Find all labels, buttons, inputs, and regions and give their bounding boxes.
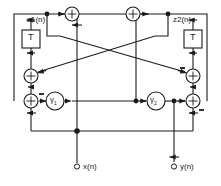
adder-low-right-group — [186, 94, 200, 108]
terminal-input-circle — [74, 164, 79, 169]
adder-mid-left-group — [24, 69, 38, 83]
adder-top-left-group — [65, 7, 79, 21]
label-z1: z1(n) — [27, 16, 45, 24]
junction-dot-gamma2-out — [172, 99, 177, 104]
label-input-x: x(n) — [83, 163, 97, 171]
junction-dot-feedback — [74, 128, 80, 134]
junction-dot-gamma2-in — [134, 99, 139, 104]
label-z2: z2(n) — [173, 16, 191, 24]
label-gamma-1-subscript: 1 — [54, 100, 57, 106]
terminal-output-circle — [171, 164, 176, 169]
adder-mid-right-group — [186, 69, 200, 83]
wire-top-left-rail — [14, 14, 65, 101]
wire-z2-cross-to-left — [38, 14, 168, 72]
figure-canvas: z1(n) z2(n) T T γ1 γ2 x(n) y(n) — [0, 0, 221, 186]
label-gamma-2: γ2 — [150, 96, 157, 106]
wire-top-right-rail — [140, 14, 207, 101]
label-gamma-2-subscript: 2 — [154, 100, 157, 106]
junction-dot-z2 — [166, 12, 171, 17]
label-output-y: y(n) — [180, 163, 194, 171]
label-delay-right: T — [190, 33, 196, 42]
adder-low-left-group — [24, 94, 38, 108]
adder-top-right-group — [126, 7, 140, 21]
lattice-filter-diagram — [0, 0, 221, 186]
label-delay-left: T — [28, 33, 34, 42]
junction-dot-z1 — [45, 12, 50, 17]
label-gamma-1: γ1 — [50, 96, 57, 106]
